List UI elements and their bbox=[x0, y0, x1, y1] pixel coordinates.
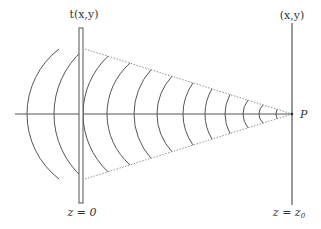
plate-plane-label: z = 0 bbox=[66, 206, 96, 219]
point-label: P bbox=[299, 108, 308, 121]
plate-label: t(x,y) bbox=[70, 8, 99, 21]
focus-point bbox=[291, 113, 293, 115]
cone-edge-bottom bbox=[85, 114, 292, 179]
transparency-plate bbox=[79, 28, 83, 203]
diffraction-diagram: t(x,y) (x,y) P z = 0 z = z0 bbox=[0, 0, 321, 229]
screen-label: (x,y) bbox=[280, 9, 305, 22]
cone-edge-top bbox=[85, 49, 292, 114]
screen-plane-label: z = z0 bbox=[272, 206, 306, 220]
screen-plane-label-subscript: 0 bbox=[301, 212, 306, 220]
screen-plane-label-main: z = z bbox=[272, 206, 301, 219]
